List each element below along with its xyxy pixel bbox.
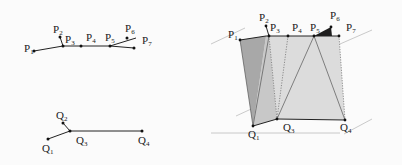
- label-r-q1: Q1: [248, 128, 260, 142]
- point-r-p6: [330, 26, 333, 29]
- edge-p2-p3-right: [266, 26, 269, 36]
- polyline-p-group: P1 P2 P3 P4 P5 P6 P7: [24, 22, 152, 56]
- label-p6: P6: [125, 22, 135, 36]
- point-r-q3: [276, 118, 279, 121]
- label-q3: Q3: [76, 134, 88, 148]
- label-r-p5: P5: [310, 21, 320, 35]
- label-p7: P7: [142, 34, 152, 48]
- point-r-p7: [338, 35, 341, 38]
- polyline-q-group: Q1 Q2 Q3 Q4: [42, 109, 150, 156]
- label-p2: P2: [53, 23, 63, 37]
- point-r-q1: [252, 125, 255, 128]
- triangulated-surface-group: P1 P2 P3 P4 P5 P6 P7 Q1 Q3 Q4: [211, 9, 372, 142]
- edge-q2-q3: [63, 123, 70, 131]
- point-p4: [80, 45, 83, 48]
- label-r-p3: P3: [270, 21, 280, 35]
- point-p7: [133, 47, 136, 50]
- point-r-p5: [313, 35, 316, 38]
- label-r-q3: Q3: [283, 121, 295, 135]
- diagram-svg: P1 P2 P3 P4 P5 P6 P7 Q1 Q2 Q3 Q4: [0, 0, 402, 165]
- point-r-p3: [268, 35, 271, 38]
- edge-p5-p7: [110, 46, 134, 48]
- point-p6: [126, 37, 129, 40]
- diagram-canvas: P1 P2 P3 P4 P5 P6 P7 Q1 Q2 Q3 Q4: [0, 0, 402, 165]
- point-q4: [141, 130, 144, 133]
- label-p5: P5: [105, 31, 115, 45]
- label-r-p7: P7: [346, 21, 356, 35]
- point-q1: [47, 138, 50, 141]
- label-p4: P4: [86, 31, 96, 45]
- point-r-p4: [287, 35, 290, 38]
- label-r-q4: Q4: [340, 121, 352, 135]
- point-r-p1: [239, 39, 242, 42]
- label-p1: P1: [24, 42, 34, 56]
- face-light-main: [269, 36, 345, 120]
- point-r-p2: [265, 25, 268, 28]
- label-r-p6: P6: [330, 9, 340, 23]
- label-r-p4: P4: [292, 21, 302, 35]
- label-q1: Q1: [42, 142, 54, 156]
- label-r-p1: P1: [228, 28, 238, 42]
- label-q2: Q2: [56, 109, 68, 123]
- polyline-p-edges: [34, 38, 136, 51]
- label-p3: P3: [65, 33, 75, 47]
- point-q3: [69, 130, 72, 133]
- top-plane-line-right: [340, 30, 372, 44]
- label-r-p2: P2: [259, 11, 269, 25]
- edge-q1-q3: [48, 131, 70, 139]
- label-q4: Q4: [138, 134, 150, 148]
